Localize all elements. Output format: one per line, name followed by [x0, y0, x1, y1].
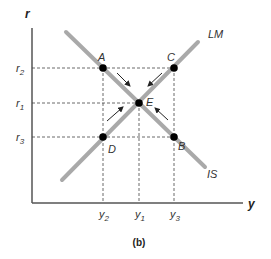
y-axis-title: r	[25, 7, 31, 21]
svg-text:r2: r2	[16, 62, 25, 77]
lm-label: LM	[208, 28, 224, 40]
point-b	[170, 133, 178, 141]
svg-text:y2: y2	[98, 208, 110, 223]
is-label: IS	[207, 168, 218, 180]
label-c: C	[167, 51, 175, 63]
x-axis-title: y	[247, 197, 256, 211]
y-tick-labels: r2 r1 r3	[16, 62, 25, 146]
svg-text:y3: y3	[169, 208, 181, 223]
islm-diagram: A B C D E IS LM r y r2 r1 r3 y2 y1 y3 (b…	[0, 0, 271, 259]
figure-caption: (b)	[133, 237, 146, 248]
label-a: A	[97, 51, 105, 63]
label-d: D	[108, 143, 116, 155]
svg-text:r3: r3	[16, 131, 25, 146]
label-b: B	[178, 140, 185, 152]
point-a	[99, 64, 107, 72]
svg-text:y1: y1	[134, 208, 145, 223]
point-d	[99, 133, 107, 141]
x-tick-labels: y2 y1 y3	[98, 208, 181, 223]
svg-text:r1: r1	[16, 97, 24, 112]
point-c	[170, 64, 178, 72]
point-e	[135, 99, 143, 107]
lm-curve	[62, 42, 198, 180]
label-e: E	[146, 96, 154, 108]
